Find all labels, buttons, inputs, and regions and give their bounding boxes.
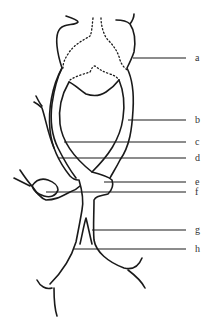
upper-right-outline [110, 14, 135, 178]
left-branch-nerve [14, 170, 80, 200]
label-f: f [195, 187, 198, 197]
stem-right [92, 172, 142, 269]
anatomical-diagram [0, 0, 210, 328]
lower-left-branch [37, 280, 57, 316]
left-side-oval [32, 179, 58, 197]
lower-spike [80, 218, 92, 244]
label-c: c [195, 137, 199, 147]
label-h: h [195, 244, 200, 254]
dotted-middle-band [70, 66, 120, 82]
inner-shield-top [69, 80, 119, 95]
label-d: d [195, 153, 200, 163]
label-a: a [195, 53, 199, 63]
label-b: b [195, 115, 200, 125]
dotted-upper-region-right [101, 18, 127, 70]
label-g: g [195, 225, 200, 235]
lower-right-branch [128, 270, 145, 288]
